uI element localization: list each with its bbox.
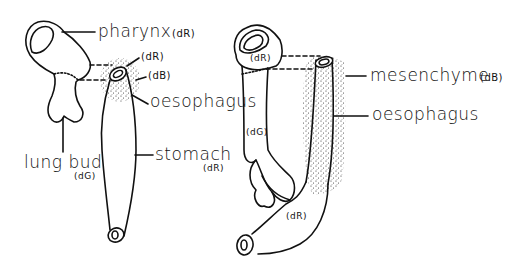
label-mesenchyme-tag: (dB) — [480, 73, 503, 83]
label-oes-ring-tag: (dR) — [141, 52, 164, 62]
label-right-stomach-tag: (dR) — [286, 212, 307, 221]
label-right-lung-tag: (dG) — [246, 128, 268, 137]
label-oes-mes-tag: (dB) — [148, 71, 171, 81]
label-pharynx: pharynx — [98, 23, 171, 40]
label-oesophagus-left: oesophagus — [150, 93, 257, 110]
label-mesenchyme: mesenchyme — [370, 67, 489, 84]
right-lung-lobes — [250, 160, 274, 207]
left-panel — [26, 21, 153, 244]
label-pharynx-tag: (dR) — [172, 29, 195, 39]
label-right-pharynx-tag: (dR) — [250, 54, 271, 63]
label-stomach-tag: (dR) — [203, 164, 224, 173]
label-lung-bud-tag: (dG) — [74, 172, 96, 181]
label-oesophagus-right: oesophagus — [372, 106, 479, 123]
label-lung-bud: lung bud — [24, 154, 102, 171]
left-pharynx-outline — [26, 21, 91, 122]
foregut-diagram: pharynx (dR) (dR) (dB) oesophagus lung b… — [0, 0, 526, 273]
label-stomach: stomach — [155, 146, 232, 163]
